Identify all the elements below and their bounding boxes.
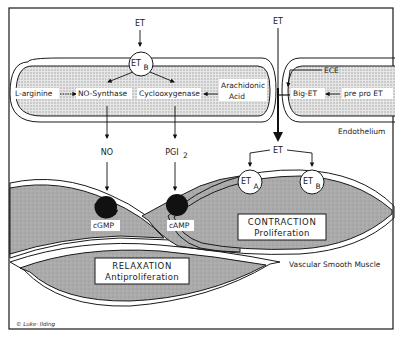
contraction-subtitle: Proliferation (254, 228, 309, 238)
artist-signature: © Luke· Ilding (16, 321, 56, 328)
vascular-smooth-muscle-label: Vascular Smooth Muscle (289, 260, 381, 269)
no-synthase-label: NO-Synthase (78, 89, 128, 98)
diagram-canvas: ET ET B L-arginine NO-Synthase Cyclooxyg… (0, 0, 397, 338)
no-label: NO (101, 148, 113, 157)
cgmp-label: cGMP (93, 221, 114, 230)
l-arginine-label: L-arginine (15, 89, 53, 98)
svg-text:B: B (315, 182, 320, 191)
cyclooxygenase-label: Cyclooxygenase (139, 89, 200, 98)
endothelium-label: Endothelium (338, 127, 385, 136)
arachidonic-acid-label-line1: Arachidonic (221, 81, 265, 90)
contraction-box: CONTRACTION Proliferation (238, 214, 326, 240)
et-label-top-left: ET (135, 19, 145, 28)
relaxation-box: RELAXATION Antiproliferation (95, 258, 189, 284)
pre-pro-et-label: pre pro ET (344, 89, 383, 98)
relaxation-subtitle: Antiproliferation (105, 272, 179, 282)
svg-text:A: A (253, 182, 259, 191)
arachidonic-acid-label-line2: Acid (229, 92, 245, 101)
etb-receptor-muscle: ET B (300, 170, 324, 194)
pgi2-subscript: 2 (183, 151, 188, 160)
eta-receptor: ET A (238, 170, 262, 194)
camp-label: cAMP (169, 221, 190, 230)
big-et-label: Big-ET (293, 89, 317, 98)
relaxation-title: RELAXATION (112, 261, 172, 271)
contraction-title: CONTRACTION (248, 217, 317, 227)
svg-text:B: B (143, 63, 148, 72)
et-label-top-right: ET (273, 17, 283, 26)
endothelin-pathway-diagram: ET ET B L-arginine NO-Synthase Cyclooxyg… (0, 0, 397, 338)
et-label-middle: ET (273, 146, 283, 155)
pgi2-label: PGI (165, 148, 178, 157)
ece-label: ECE (324, 66, 339, 75)
cgmp-receptor-icon (95, 196, 117, 218)
svg-text:ET: ET (131, 59, 141, 68)
svg-text:ET: ET (303, 177, 313, 186)
camp-receptor-icon (166, 194, 188, 216)
svg-text:ET: ET (241, 177, 251, 186)
